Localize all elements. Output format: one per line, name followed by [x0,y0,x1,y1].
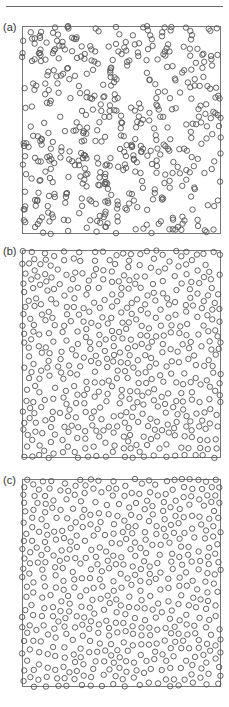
points-group [19,476,223,689]
point-pattern-plot-a [18,22,225,238]
header-rule [6,6,223,7]
panel-label-b: (b) [3,246,16,257]
cropped-header-text [0,0,229,3]
point-pattern-plot-b [18,246,225,462]
point-pattern-plot-c [18,475,225,691]
plot-frame [23,27,221,234]
panel-label-c: (c) [3,475,16,486]
points-group [20,248,224,461]
points-group [19,23,223,236]
panel-label-a: (a) [3,22,16,33]
